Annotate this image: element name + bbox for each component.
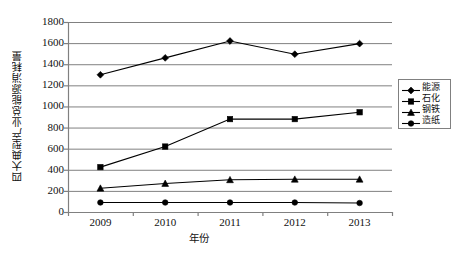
data-point-marker <box>292 200 298 206</box>
legend-circle-icon <box>401 115 421 126</box>
data-point-marker <box>291 51 298 58</box>
data-point-marker <box>357 200 363 206</box>
series-line <box>100 41 359 75</box>
chart-legend: 能源石化钢铁造纸 <box>398 79 451 129</box>
legend-square-icon <box>401 93 421 104</box>
series-2 <box>98 110 363 170</box>
legend-triangle-icon <box>401 104 421 115</box>
legend-diamond-icon <box>401 82 421 93</box>
legend-label: 能源 <box>421 82 440 93</box>
series-4 <box>98 200 363 206</box>
legend-item-4[interactable]: 造纸 <box>401 115 448 126</box>
data-point-marker <box>97 71 104 78</box>
legend-label: 造纸 <box>421 115 440 126</box>
line-chart: 四大典型产业总能源消耗量 020040060080010001200140016… <box>0 0 458 266</box>
data-point-marker <box>98 164 103 169</box>
data-point-marker <box>357 110 362 115</box>
x-tick-label: 2013 <box>333 216 387 229</box>
data-point-marker <box>162 54 169 61</box>
legend-label: 钢铁 <box>421 104 440 115</box>
series-layer <box>97 38 363 206</box>
series-3 <box>97 176 363 191</box>
x-tick-label: 2010 <box>138 216 192 229</box>
legend-item-2[interactable]: 石化 <box>401 93 448 104</box>
legend-item-1[interactable]: 能源 <box>401 82 448 93</box>
x-tick-label: 2012 <box>268 216 322 229</box>
data-point-marker <box>162 200 168 206</box>
legend-label: 石化 <box>421 93 440 104</box>
data-point-marker <box>227 200 233 206</box>
legend-item-3[interactable]: 钢铁 <box>401 104 448 115</box>
data-point-marker <box>163 144 168 149</box>
x-axis-title: 年份 <box>0 230 458 245</box>
x-axis-title-text: 年份 <box>189 233 209 244</box>
data-point-marker <box>408 121 414 127</box>
x-tick-label: 2011 <box>203 216 257 229</box>
data-point-marker <box>292 116 297 121</box>
x-tick-label: 2009 <box>73 216 127 229</box>
data-point-marker <box>227 116 232 121</box>
data-point-marker <box>98 200 104 206</box>
data-point-marker <box>356 40 363 47</box>
